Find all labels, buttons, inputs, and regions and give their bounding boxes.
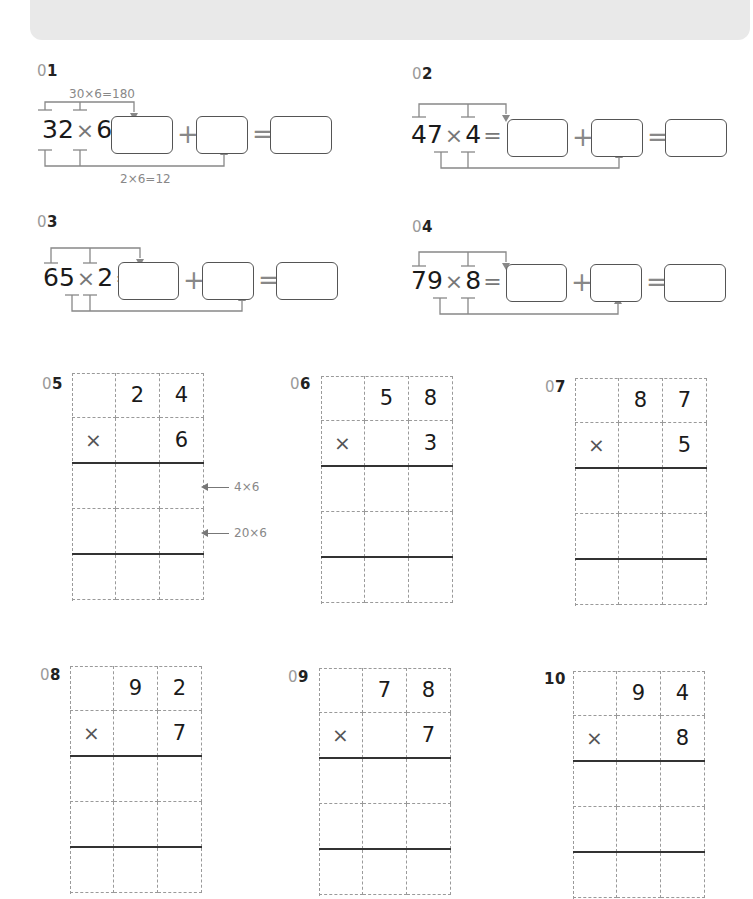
partial-2-tens[interactable] <box>116 509 160 554</box>
partial-2-ones[interactable] <box>661 807 705 852</box>
result-hundreds[interactable] <box>72 555 116 600</box>
partial-1-ones[interactable] <box>409 467 453 512</box>
partial-2-tens[interactable] <box>619 514 663 559</box>
number-prefix: 0 <box>40 666 50 684</box>
factor-b: 6 <box>96 115 112 144</box>
grid-cell-empty[interactable] <box>114 711 158 756</box>
partial-1-tens[interactable] <box>619 469 663 514</box>
answer-box-total[interactable] <box>665 119 727 157</box>
result-tens[interactable] <box>617 853 661 898</box>
grid-cell-empty[interactable] <box>363 713 407 758</box>
grid-cell-tens: 8 <box>619 378 663 423</box>
result-hundreds[interactable] <box>321 558 365 603</box>
partial-2-hundreds[interactable] <box>573 807 617 852</box>
partial-2-hundreds[interactable] <box>70 802 114 847</box>
partial-2-tens[interactable] <box>114 802 158 847</box>
partial-1-hundreds[interactable] <box>72 464 116 509</box>
partial-2-hundreds[interactable] <box>72 509 116 554</box>
number-prefix: 0 <box>37 213 47 231</box>
partial-1-hundreds[interactable] <box>319 759 363 804</box>
answer-box-partial-2[interactable] <box>591 119 643 157</box>
partial-1-tens[interactable] <box>116 464 160 509</box>
partial-2-tens[interactable] <box>617 807 661 852</box>
partial-2-ones[interactable] <box>158 802 202 847</box>
answer-box-partial-1[interactable] <box>118 262 179 300</box>
problem-number-01: 01 <box>37 62 58 80</box>
partial-1-tens[interactable] <box>363 759 407 804</box>
result-tens[interactable] <box>619 560 663 605</box>
grid-cell-hundreds[interactable] <box>321 376 365 421</box>
result-tens[interactable] <box>363 850 407 895</box>
grid-cell-empty[interactable] <box>619 423 663 468</box>
partial-1-ones[interactable] <box>663 469 707 514</box>
split-equation-02: 47×4= + = <box>408 100 748 210</box>
result-ones[interactable] <box>407 850 451 895</box>
partial-1-ones[interactable] <box>158 757 202 802</box>
partial-1-ones[interactable] <box>160 464 204 509</box>
answer-box-partial-2[interactable] <box>590 264 642 302</box>
note-ones-step: 4×6 <box>234 480 259 494</box>
answer-box-total[interactable] <box>664 264 726 302</box>
partial-1-ones[interactable] <box>407 759 451 804</box>
number-suffix: 7 <box>555 378 566 396</box>
result-ones[interactable] <box>158 848 202 893</box>
grid-cell-empty[interactable] <box>116 418 160 463</box>
hint-bottom: 2×6=12 <box>120 172 171 186</box>
result-tens[interactable] <box>116 555 160 600</box>
partial-1-hundreds[interactable] <box>575 469 619 514</box>
result-hundreds[interactable] <box>573 853 617 898</box>
partial-2-hundreds[interactable] <box>321 512 365 557</box>
divider-line <box>573 760 705 762</box>
factor-a: 47 <box>411 120 443 149</box>
grid-cell-hundreds[interactable] <box>575 378 619 423</box>
partial-2-ones[interactable] <box>160 509 204 554</box>
partial-2-tens[interactable] <box>363 804 407 849</box>
problem-number-02: 02 <box>412 65 433 83</box>
grid-cell-hundreds[interactable] <box>319 668 363 713</box>
answer-box-partial-1[interactable] <box>111 116 173 154</box>
result-ones[interactable] <box>661 853 705 898</box>
partial-2-ones[interactable] <box>663 514 707 559</box>
partial-2-ones[interactable] <box>407 804 451 849</box>
result-hundreds[interactable] <box>70 848 114 893</box>
partial-1-tens[interactable] <box>114 757 158 802</box>
divider-line <box>319 757 451 759</box>
partial-1-hundreds[interactable] <box>70 757 114 802</box>
arrow-left-icon <box>207 533 229 534</box>
answer-box-total[interactable] <box>276 262 338 300</box>
number-suffix: 9 <box>298 668 309 686</box>
answer-box-partial-2[interactable] <box>202 262 254 300</box>
grid-cell-hundreds[interactable] <box>573 671 617 716</box>
partial-1-tens[interactable] <box>617 762 661 807</box>
partial-2-ones[interactable] <box>409 512 453 557</box>
number-prefix: 0 <box>37 62 47 80</box>
partial-2-hundreds[interactable] <box>319 804 363 849</box>
header-banner <box>30 0 750 40</box>
divider-line <box>70 846 202 848</box>
partial-1-tens[interactable] <box>365 467 409 512</box>
answer-box-partial-2[interactable] <box>196 116 248 154</box>
result-tens[interactable] <box>365 558 409 603</box>
result-ones[interactable] <box>409 558 453 603</box>
partial-1-ones[interactable] <box>661 762 705 807</box>
partial-1-hundreds[interactable] <box>573 762 617 807</box>
answer-box-partial-1[interactable] <box>507 119 568 157</box>
equals-sign: = <box>483 123 501 148</box>
result-tens[interactable] <box>114 848 158 893</box>
grid-cell-hundreds[interactable] <box>72 373 116 418</box>
number-prefix: 0 <box>412 218 422 236</box>
partial-2-hundreds[interactable] <box>575 514 619 559</box>
result-hundreds[interactable] <box>575 560 619 605</box>
result-ones[interactable] <box>663 560 707 605</box>
partial-1-hundreds[interactable] <box>321 467 365 512</box>
answer-box-total[interactable] <box>270 116 332 154</box>
grid-cell-empty[interactable] <box>617 716 661 761</box>
grid-cell-ones: 4 <box>661 671 705 716</box>
answer-box-partial-1[interactable] <box>506 264 567 302</box>
result-hundreds[interactable] <box>319 850 363 895</box>
grid-cell-empty[interactable] <box>365 421 409 466</box>
grid-cell-ones: 8 <box>407 668 451 713</box>
partial-2-tens[interactable] <box>365 512 409 557</box>
grid-cell-hundreds[interactable] <box>70 666 114 711</box>
result-ones[interactable] <box>160 555 204 600</box>
